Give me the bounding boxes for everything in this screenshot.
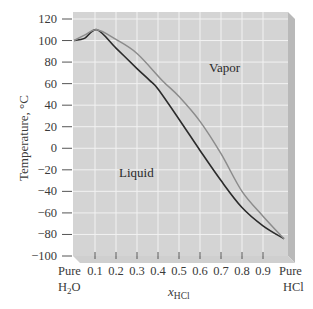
x-tick-label: 0.8 xyxy=(234,264,250,278)
y-tick-label: 0 xyxy=(51,141,57,155)
y-tick-label: −20 xyxy=(37,163,57,177)
y-axis: 120100806040200−20−40−60−80−100 xyxy=(31,12,72,263)
x-tick-label: 0.7 xyxy=(213,264,229,278)
y-tick-label: 60 xyxy=(45,77,58,91)
x-tick-label: 0.6 xyxy=(192,264,208,278)
y-tick-label: 120 xyxy=(38,12,57,26)
x-tick-label: 0.4 xyxy=(150,264,166,278)
y-tick-label: 40 xyxy=(45,98,58,112)
y-tick-label: 80 xyxy=(45,55,58,69)
y-tick-label: −100 xyxy=(31,249,57,263)
plot-shadow-right xyxy=(288,12,295,263)
y-axis-title: Temperature, °C xyxy=(16,95,31,181)
x-tick-pure-h2o-line1: Pure xyxy=(58,264,81,278)
x-tick-label: 0.2 xyxy=(108,264,124,278)
x-tick-label: 0.9 xyxy=(255,264,271,278)
y-tick-label: −40 xyxy=(37,184,57,198)
phase-diagram-chart: 120100806040200−20−40−60−80−100 0.10.20.… xyxy=(0,0,313,309)
x-tick-pure-h2o-line2: H2O xyxy=(58,280,81,296)
y-tick-label: −60 xyxy=(37,206,57,220)
x-tick-label: 0.3 xyxy=(129,264,145,278)
liquid-region-label: Liquid xyxy=(119,165,154,180)
y-tick-label: −80 xyxy=(37,227,57,241)
x-tick-label: 0.1 xyxy=(87,264,103,278)
plot-shadow-bottom xyxy=(73,256,295,263)
vapor-region-label: Vapor xyxy=(209,60,241,75)
y-tick-label: 100 xyxy=(38,34,57,48)
x-tick-label: 0.5 xyxy=(171,264,187,278)
x-tick-pure-hcl-line2: HCl xyxy=(283,280,304,294)
x-tick-pure-hcl-line1: Pure xyxy=(279,264,302,278)
y-tick-label: 20 xyxy=(45,120,58,134)
x-axis-title: xHCl xyxy=(167,284,190,301)
